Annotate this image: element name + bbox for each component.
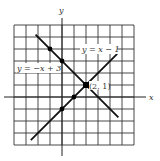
- grid: [14, 25, 134, 145]
- label-intersection: (2, 1): [89, 82, 111, 91]
- data-point: [60, 107, 65, 112]
- data-point: [48, 47, 53, 52]
- data-point: [72, 95, 77, 100]
- graph: y = −x + 3 y = x − 1 (2, 1) x y: [0, 0, 160, 161]
- label-line1: y = −x + 3: [16, 64, 61, 73]
- data-point: [60, 59, 65, 64]
- x-axis-label: x: [149, 93, 154, 102]
- label-line2: y = x − 1: [81, 45, 120, 54]
- y-axis-label: y: [58, 6, 64, 15]
